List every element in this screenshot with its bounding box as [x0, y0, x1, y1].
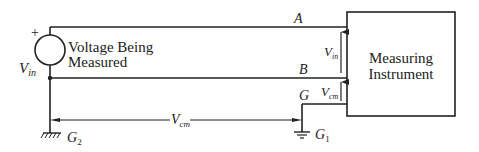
ground-g2-icon — [41, 133, 61, 138]
source-label-line2: Measured — [68, 54, 128, 70]
circuit-diagram: + Vin Voltage Being Measured Measuring I… — [0, 0, 479, 152]
polarity-plus: + — [31, 25, 39, 40]
node-b-label: B — [299, 62, 308, 77]
vin-source-label: Vin — [19, 60, 36, 78]
voltage-source-icon — [35, 35, 65, 65]
instrument-label-line2: Instrument — [369, 66, 435, 82]
vin-label: Vin — [324, 44, 338, 61]
ground-g2-label: G2 — [67, 130, 82, 147]
ground-g1-label: G1 — [315, 127, 330, 144]
instrument-label-line1: Measuring — [369, 50, 434, 66]
node-a-label: A — [293, 11, 303, 26]
source-label-line1: Voltage Being — [68, 39, 154, 55]
vcm-label: Vcm — [321, 84, 339, 101]
ground-g1-icon — [294, 132, 310, 138]
vcm-between-grounds-label: Vcm — [171, 112, 191, 129]
node-g-label: G — [299, 88, 309, 103]
